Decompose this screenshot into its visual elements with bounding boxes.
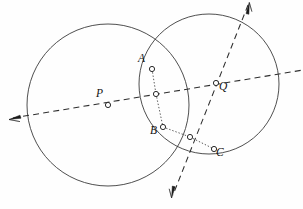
point-label-A: A [138, 53, 145, 65]
point-label-Q: Q [219, 81, 227, 93]
chord-M-to-B [156, 94, 163, 127]
point-marker-A [149, 66, 154, 71]
geometry-figure: P Q A B C [0, 0, 303, 209]
circle-Q [139, 14, 279, 154]
transversal-line-group [169, 3, 252, 199]
point-marker-P [105, 102, 110, 107]
circles-group [27, 14, 279, 186]
point-label-C: C [216, 147, 224, 159]
arrow-left-icon [9, 115, 21, 121]
point-marker-m-unlabeled [153, 91, 158, 96]
geometry-canvas [0, 0, 303, 209]
point-label-P: P [96, 88, 103, 100]
dotted-chords-group [152, 69, 214, 149]
transversal-line [173, 5, 248, 195]
caption-strip [0, 195, 303, 209]
point-label-B: B [150, 125, 157, 137]
point-marker-B [160, 124, 165, 129]
point-marker-Q [213, 80, 218, 85]
chord-A-to-M [152, 69, 156, 94]
point-markers-group [105, 66, 218, 151]
point-marker-n-unlabeled [187, 134, 192, 139]
